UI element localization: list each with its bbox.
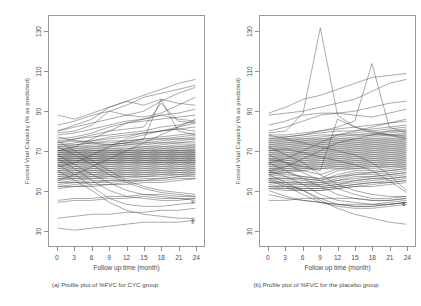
- y-tick-mark: [44, 151, 48, 152]
- profile-line: [269, 79, 407, 115]
- y-tick-mark: [255, 111, 259, 112]
- profile-line: [58, 208, 196, 218]
- profile-line: [58, 79, 196, 119]
- figure-container: Forced Vital Capacity (% as predicted) b…: [0, 0, 421, 306]
- y-tick-mark: [255, 31, 259, 32]
- y-tick-label: 50: [34, 179, 43, 203]
- profile-line: [58, 151, 196, 157]
- series-end-marker: b: [191, 220, 194, 225]
- x-tick-label: 3: [278, 253, 292, 262]
- y-tick-mark: [44, 231, 48, 232]
- y-tick-mark: [44, 71, 48, 72]
- profile-line: [58, 159, 196, 165]
- profile-line: [58, 149, 196, 155]
- caption-a: (a) Profile plot of %FVC for CYC group: [0, 281, 210, 288]
- y-tick-label: 70: [34, 139, 43, 163]
- x-tick-label: 15: [348, 253, 362, 262]
- profile-line: [58, 149, 196, 155]
- x-tick-label: 18: [154, 253, 168, 262]
- profile-line: [58, 153, 196, 159]
- x-tick-label: 18: [365, 253, 379, 262]
- caption-b: (b) Profile plot of %FVC for the placebo…: [211, 281, 421, 288]
- profile-line: [269, 74, 407, 114]
- plot-area-b: bb: [259, 15, 416, 247]
- x-axis-title-b: Follow up time (month): [259, 264, 416, 271]
- profile-line: [58, 85, 196, 125]
- profile-line: [58, 119, 196, 180]
- x-tick-label: 3: [67, 253, 81, 262]
- y-tick-mark: [44, 31, 48, 32]
- x-tick-mark: [407, 247, 408, 251]
- x-tick-mark: [57, 247, 58, 251]
- profile-lines-b: bb: [260, 16, 415, 246]
- x-tick-mark: [127, 247, 128, 251]
- y-tick-label: 70: [245, 139, 254, 163]
- x-tick-label: 6: [296, 253, 310, 262]
- x-tick-label: 0: [50, 253, 64, 262]
- profile-line: [58, 163, 196, 169]
- y-axis-title-a: Forced Vital Capacity (% as predicted): [20, 15, 34, 247]
- x-tick-mark: [268, 247, 269, 251]
- profile-line: [269, 171, 407, 205]
- profile-line: [58, 161, 196, 167]
- profile-line: [58, 147, 196, 153]
- profile-line: [58, 147, 196, 153]
- x-tick-label: 0: [261, 253, 275, 262]
- x-tick-label: 12: [120, 253, 134, 262]
- panel-cyc-group: Forced Vital Capacity (% as predicted) b…: [0, 0, 210, 306]
- profile-line: [58, 155, 196, 161]
- profile-line: [58, 157, 196, 163]
- y-tick-mark: [255, 231, 259, 232]
- x-tick-mark: [109, 247, 110, 251]
- y-tick-label: 110: [34, 59, 43, 83]
- x-tick-mark: [303, 247, 304, 251]
- x-tick-label: 9: [102, 253, 116, 262]
- series-end-marker: b: [191, 200, 194, 205]
- x-tick-label: 6: [85, 253, 99, 262]
- profile-line: [58, 157, 196, 163]
- x-tick-label: 24: [189, 253, 203, 262]
- x-axis-title-a: Follow up time (month): [48, 264, 205, 271]
- x-tick-mark: [179, 247, 180, 251]
- x-tick-mark: [285, 247, 286, 251]
- plot-area-a: bbb: [48, 15, 205, 247]
- profile-line: [58, 196, 196, 202]
- x-tick-mark: [320, 247, 321, 251]
- x-tick-mark: [196, 247, 197, 251]
- profile-line: [58, 145, 196, 151]
- x-tick-mark: [372, 247, 373, 251]
- y-tick-label: 30: [245, 219, 254, 243]
- x-tick-mark: [144, 247, 145, 251]
- profile-line: [58, 155, 196, 161]
- profile-line: [269, 28, 407, 137]
- profile-line: [269, 179, 407, 189]
- y-tick-label: 50: [245, 179, 254, 203]
- y-tick-label: 90: [34, 99, 43, 123]
- profile-line: [58, 159, 196, 165]
- profile-line: [58, 161, 196, 167]
- y-tick-mark: [44, 111, 48, 112]
- x-tick-label: 12: [331, 253, 345, 262]
- x-tick-mark: [355, 247, 356, 251]
- x-tick-mark: [161, 247, 162, 251]
- y-tick-label: 30: [34, 219, 43, 243]
- x-tick-mark: [390, 247, 391, 251]
- profile-line: [58, 109, 196, 135]
- x-tick-mark: [74, 247, 75, 251]
- y-tick-mark: [255, 191, 259, 192]
- y-tick-label: 130: [245, 19, 254, 43]
- profile-line: [58, 171, 196, 219]
- y-tick-label: 110: [245, 59, 254, 83]
- panel-placebo-group: Forced Vital Capacity (% as predicted) b…: [211, 0, 421, 306]
- profile-line: [58, 194, 196, 200]
- y-tick-label: 130: [34, 19, 43, 43]
- y-tick-mark: [44, 191, 48, 192]
- profile-line: [58, 153, 196, 159]
- y-tick-mark: [255, 71, 259, 72]
- profile-lines-a: bbb: [49, 16, 204, 246]
- x-tick-label: 24: [400, 253, 414, 262]
- profile-line: [269, 179, 407, 225]
- x-tick-label: 9: [313, 253, 327, 262]
- x-tick-label: 21: [172, 253, 186, 262]
- x-tick-label: 15: [137, 253, 151, 262]
